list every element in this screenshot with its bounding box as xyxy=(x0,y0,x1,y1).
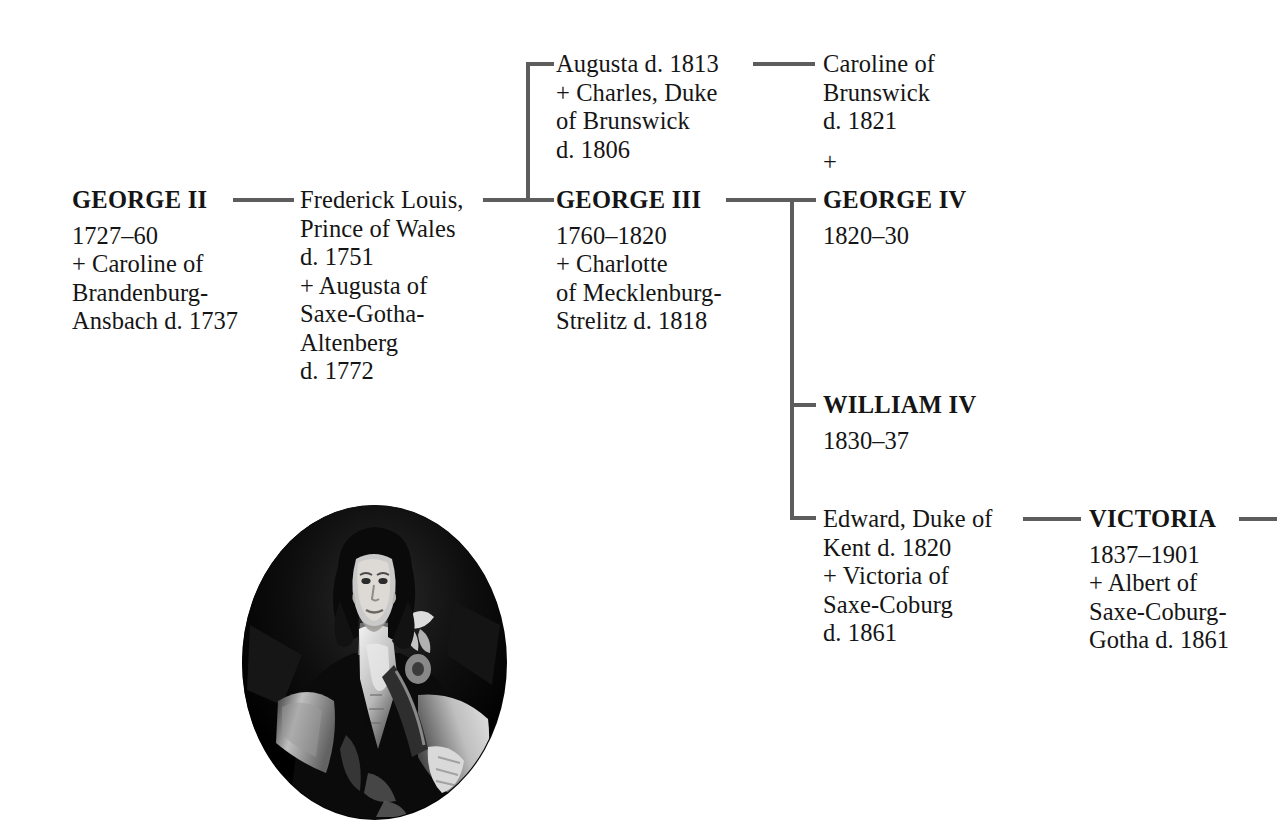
person-victoria: VICTORIA 1837–1901 + Albert of Saxe-Cobu… xyxy=(1089,505,1229,655)
person-details: 1727–60 + Caroline of Brandenburg- Ansba… xyxy=(72,222,238,336)
detail-line: Altenberg xyxy=(300,329,464,358)
name-line: Edward, Duke of xyxy=(823,505,993,534)
name-line: of Brunswick xyxy=(556,107,719,136)
bracket-stub-george3 xyxy=(526,198,554,202)
detail-line: Brandenburg- xyxy=(72,279,238,308)
name-line: d. 1806 xyxy=(556,136,719,165)
bracket-stub-william4 xyxy=(790,403,816,407)
detail-line: 1837–1901 xyxy=(1089,541,1229,570)
detail-line: Saxe-Gotha- xyxy=(300,300,464,329)
name-line: Brunswick xyxy=(823,79,935,108)
person-frederick-louis: Frederick Louis, Prince of Wales d. 1751… xyxy=(300,186,464,386)
bracket-stub-george4 xyxy=(790,198,816,202)
marriage-plus-sign-george4: + xyxy=(823,148,837,177)
detail-line: + Caroline of xyxy=(72,250,238,279)
detail-line: 1830–37 xyxy=(823,427,976,456)
person-name: Caroline of Brunswick d. 1821 xyxy=(823,50,935,136)
person-caroline-of-brunswick: Caroline of Brunswick d. 1821 xyxy=(823,50,935,136)
name-line: Saxe-Coburg xyxy=(823,591,993,620)
detail-line: + Albert of xyxy=(1089,569,1229,598)
bracket-spine-george3-children xyxy=(790,198,794,520)
detail-line: Strelitz d. 1818 xyxy=(556,307,722,336)
person-edward-duke-of-kent: Edward, Duke of Kent d. 1820 + Victoria … xyxy=(823,505,993,648)
detail-line: 1727–60 xyxy=(72,222,238,251)
person-george-ii: GEORGE II 1727–60 + Caroline of Brandenb… xyxy=(72,186,238,336)
person-name: VICTORIA xyxy=(1089,505,1229,534)
name-line: d. 1861 xyxy=(823,619,993,648)
connector-george2-frederick xyxy=(233,198,294,202)
family-tree-diagram: GEORGE II 1727–60 + Caroline of Brandenb… xyxy=(0,0,1277,820)
name-line: Augusta d. 1813 xyxy=(556,50,719,79)
bracket-spine-frederick-children xyxy=(526,62,530,202)
detail-line: d. 1751 xyxy=(300,243,464,272)
detail-line: + Charlotte xyxy=(556,250,722,279)
detail-line: 1820–30 xyxy=(823,222,967,251)
detail-line: + Augusta of xyxy=(300,272,464,301)
name-line: Kent d. 1820 xyxy=(823,534,993,563)
connector-victoria-offpage xyxy=(1239,517,1277,521)
name-line: Frederick Louis, xyxy=(300,186,464,215)
person-name: Edward, Duke of Kent d. 1820 + Victoria … xyxy=(823,505,993,648)
detail-line: of Mecklenburg- xyxy=(556,279,722,308)
name-line: Caroline of xyxy=(823,50,935,79)
person-augusta: Augusta d. 1813 + Charles, Duke of Bruns… xyxy=(556,50,719,164)
bracket-stub-edward-kent xyxy=(790,516,816,520)
person-william-iv: WILLIAM IV 1830–37 xyxy=(823,391,976,455)
person-name: WILLIAM IV xyxy=(823,391,976,420)
person-details: d. 1751 + Augusta of Saxe-Gotha- Altenbe… xyxy=(300,243,464,386)
person-name: GEORGE III xyxy=(556,186,722,215)
bracket-stub-augusta xyxy=(526,62,554,66)
connector-augusta-caroline xyxy=(753,62,815,66)
plus-symbol: + xyxy=(823,148,837,177)
person-george-iii: GEORGE III 1760–1820 + Charlotte of Meck… xyxy=(556,186,722,336)
person-name: GEORGE IV xyxy=(823,186,967,215)
connector-edward-victoria xyxy=(1023,517,1081,521)
person-name: GEORGE II xyxy=(72,186,238,215)
person-details: 1820–30 xyxy=(823,222,967,251)
detail-line: d. 1772 xyxy=(300,357,464,386)
portrait-illustration xyxy=(242,505,507,820)
person-details: 1837–1901 + Albert of Saxe-Coburg- Gotha… xyxy=(1089,541,1229,655)
name-line: d. 1821 xyxy=(823,107,935,136)
name-line: + Victoria of xyxy=(823,562,993,591)
detail-line: 1760–1820 xyxy=(556,222,722,251)
person-details: 1760–1820 + Charlotte of Mecklenburg- St… xyxy=(556,222,722,336)
name-line: Prince of Wales xyxy=(300,215,464,244)
person-george-iv: GEORGE IV 1820–30 xyxy=(823,186,967,250)
name-line: + Charles, Duke xyxy=(556,79,719,108)
detail-line: Saxe-Coburg- xyxy=(1089,598,1229,627)
oval-portrait-george-ii xyxy=(242,505,507,820)
detail-line: Gotha d. 1861 xyxy=(1089,626,1229,655)
person-name: Augusta d. 1813 + Charles, Duke of Bruns… xyxy=(556,50,719,164)
person-name: Frederick Louis, Prince of Wales xyxy=(300,186,464,243)
detail-line: Ansbach d. 1737 xyxy=(72,307,238,336)
person-details: 1830–37 xyxy=(823,427,976,456)
connector-george3-to-spine xyxy=(726,198,794,202)
